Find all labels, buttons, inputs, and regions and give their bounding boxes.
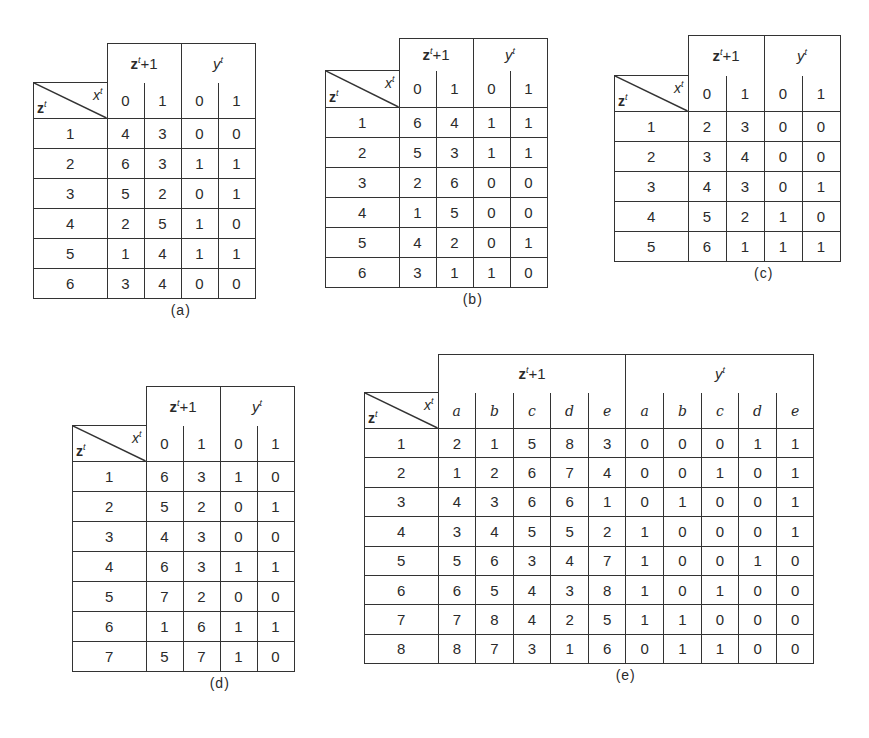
state-cell: 6: [365, 575, 439, 604]
next-state-cell: 2: [726, 202, 764, 232]
next-state-cell: 5: [588, 605, 626, 634]
output-cell: 1: [764, 232, 802, 262]
next-state-cell: 8: [551, 429, 589, 458]
output-header: yt: [220, 387, 294, 426]
output-cell: 1: [473, 138, 510, 168]
table-row: 16411: [326, 108, 548, 138]
next-state-cell: 1: [438, 458, 476, 487]
next-state-input-header: c: [513, 393, 551, 429]
output-header: yt: [764, 36, 840, 76]
state-cell: 2: [34, 149, 108, 179]
state-cell: 5: [73, 582, 147, 612]
state-cell: 5: [365, 546, 439, 575]
next-state-cell: 4: [688, 172, 726, 202]
superscript: t: [804, 47, 807, 57]
input-symbol: 0: [703, 85, 711, 102]
next-state-cell: 4: [588, 458, 626, 487]
table-row: 63110: [326, 258, 548, 288]
output-cell: 1: [181, 209, 218, 239]
output-cell: 0: [764, 112, 802, 142]
output-cell: 0: [181, 269, 218, 299]
output-cell: 1: [802, 172, 840, 202]
next-state-cell: 3: [399, 258, 436, 288]
next-state-header: zt+1: [146, 387, 220, 426]
state-cell: 7: [365, 605, 439, 634]
next-state-cell: 6: [107, 149, 144, 179]
state-cell: 6: [73, 612, 147, 642]
table-row: 61611: [73, 612, 295, 642]
corner-cell: ztxt: [34, 83, 108, 119]
next-state-cell: 6: [183, 612, 220, 642]
output-cell: 1: [776, 458, 814, 487]
next-state-cell: 1: [476, 429, 514, 458]
output-cell: 1: [510, 228, 547, 258]
output-input-header: 1: [802, 76, 840, 112]
next-state-cell: 2: [476, 458, 514, 487]
next-state-header: zt+1: [688, 36, 764, 76]
next-state-cell: 4: [399, 228, 436, 258]
output-cell: 0: [664, 458, 702, 487]
input-symbol: b: [678, 403, 687, 419]
next-state-cell: 2: [551, 605, 589, 634]
next-state-cell: 1: [146, 612, 183, 642]
input-symbol: 0: [121, 92, 129, 109]
input-axis-label: xt: [93, 86, 103, 103]
next-state-suffix: +1: [722, 47, 739, 64]
state-cell: 1: [34, 119, 108, 149]
output-cell: 0: [220, 522, 257, 552]
input-symbol: 1: [197, 435, 205, 452]
output-cell: 0: [776, 634, 814, 663]
superscript: t: [512, 46, 515, 56]
output-cell: 1: [218, 239, 255, 269]
corner-cell: ztxt: [73, 426, 147, 462]
output-cell: 0: [218, 119, 255, 149]
output-cell: 0: [510, 258, 547, 288]
next-state-cell: 5: [146, 642, 183, 672]
next-state-cell: 3: [144, 149, 181, 179]
state-table-e: zt+1ytztxtabcdeabcde12158300011212674001…: [364, 354, 814, 683]
table-row: 51411: [34, 239, 256, 269]
table-row: 25311: [326, 138, 548, 168]
state-cell: 2: [365, 458, 439, 487]
next-state-label: z: [712, 47, 720, 64]
output-cell: 1: [776, 487, 814, 516]
input-symbol: d: [565, 403, 574, 419]
next-state-cell: 8: [476, 605, 514, 634]
table-row: 34366101001: [365, 487, 814, 516]
output-cell: 0: [776, 605, 814, 634]
input-symbol: 1: [232, 92, 240, 109]
output-cell: 0: [739, 458, 777, 487]
table-row: 42510: [34, 209, 256, 239]
state-cell: 4: [73, 552, 147, 582]
next-state-cell: 2: [438, 429, 476, 458]
output-header: yt: [473, 39, 547, 71]
state-cell: 3: [365, 487, 439, 516]
input-symbol: c: [716, 403, 724, 419]
state-cell: 1: [326, 108, 400, 138]
next-state-input-header: e: [588, 393, 626, 429]
next-state-cell: 6: [146, 462, 183, 492]
table-row: 32600: [326, 168, 548, 198]
output-cell: 1: [257, 612, 294, 642]
next-state-suffix: +1: [432, 46, 449, 63]
output-cell: 0: [257, 462, 294, 492]
next-state-cell: 2: [183, 492, 220, 522]
output-cell: 1: [776, 429, 814, 458]
next-state-cell: 3: [144, 119, 181, 149]
next-state-cell: 8: [438, 634, 476, 663]
table-row: 34301: [615, 172, 841, 202]
output-cell: 1: [220, 612, 257, 642]
input-symbol: 0: [487, 80, 495, 97]
next-state-cell: 5: [688, 202, 726, 232]
next-state-cell: 3: [726, 112, 764, 142]
state-cell: 6: [326, 258, 400, 288]
output-cell: 1: [510, 138, 547, 168]
state-cell: 5: [615, 232, 689, 262]
table-row: 12300: [615, 112, 841, 142]
input-symbol: 0: [160, 435, 168, 452]
table-row: 57200: [73, 582, 295, 612]
figure-caption: (b): [325, 291, 548, 307]
next-state-cell: 4: [436, 108, 473, 138]
blank-cell: [326, 39, 400, 71]
corner-cell: ztxt: [326, 71, 400, 108]
